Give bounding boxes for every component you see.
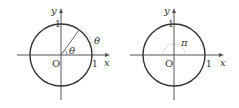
angle-arc xyxy=(65,50,68,55)
y-axis-label: y xyxy=(50,5,57,16)
y-axis-label: y xyxy=(163,5,170,16)
origin-label: O xyxy=(52,58,60,69)
x-tick-label: 1 xyxy=(92,59,98,69)
arc-length-marker xyxy=(81,28,95,55)
unit-circle-diagrams: y 1 O 1 x θ θ y 1 O 1 x π xyxy=(0,0,239,108)
central-angle-label: θ xyxy=(69,45,75,56)
y-axis-arrow-icon xyxy=(172,8,176,13)
y-tick-label: 1 xyxy=(168,19,174,29)
right-unit-circle-figure: y 1 O 1 x π xyxy=(130,5,226,100)
origin-label: O xyxy=(165,58,173,69)
y-tick-label: 1 xyxy=(55,19,61,29)
x-tick-label: 1 xyxy=(206,59,212,69)
y-axis-arrow-icon xyxy=(59,8,63,13)
arc-angle-label: θ xyxy=(94,35,100,46)
x-axis-label: x xyxy=(104,57,110,68)
central-angle-label: π xyxy=(180,37,188,48)
left-unit-circle-figure: y 1 O 1 x θ θ xyxy=(17,5,110,100)
x-axis-label: x xyxy=(220,57,226,68)
